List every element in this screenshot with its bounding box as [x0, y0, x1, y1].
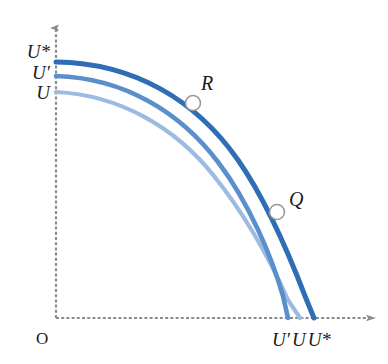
- y-axis-label-u: U: [36, 83, 50, 102]
- utility-possibility-frontier-figure: U* U′ U U′UU* O R Q: [0, 0, 388, 364]
- marker-point-q[interactable]: [270, 205, 285, 220]
- point-label-q: Q: [289, 188, 303, 211]
- marker-point-r[interactable]: [186, 96, 201, 111]
- y-axis-label-u-prime: U′: [32, 63, 50, 82]
- origin-label: O: [36, 330, 48, 347]
- chart-canvas: [0, 0, 388, 364]
- x-axis-label-u: U: [292, 330, 306, 349]
- curve-u-prime: [56, 76, 288, 318]
- y-axis-label-u-star: U*: [27, 42, 50, 61]
- curve-u-star: [56, 62, 314, 318]
- x-axis-label-u-prime: U′: [272, 330, 290, 349]
- x-axis-label-group: U′UU*: [272, 330, 331, 349]
- point-label-r: R: [201, 72, 213, 95]
- x-axis-label-u-star: U*: [308, 330, 331, 349]
